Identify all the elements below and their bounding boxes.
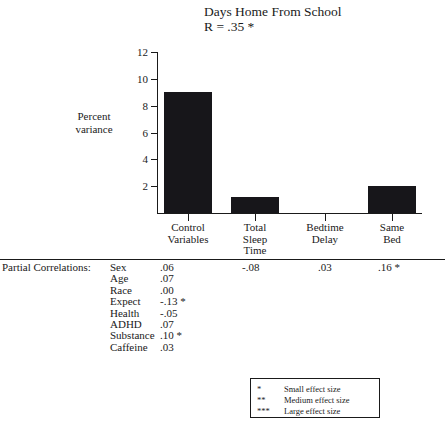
- x-axis-category-label-line: Same: [353, 222, 431, 234]
- partial-correlation-names-column: SexAgeRaceExpectHealthADHDSubstanceCaffe…: [110, 262, 155, 353]
- value-bedtime-delay: .03: [318, 262, 332, 273]
- partial-correlations-label: Partial Correlations:: [2, 262, 91, 273]
- y-axis-tick-label-text: 4: [124, 154, 148, 165]
- y-axis-tick: [151, 133, 158, 134]
- table-top-rule: [0, 259, 445, 260]
- x-axis-line: [157, 213, 422, 214]
- effect-size-legend: *Small effect size**Medium effect size**…: [250, 378, 380, 418]
- legend-marker: **: [257, 395, 283, 405]
- y-axis-tick-label-text: 12: [124, 47, 148, 58]
- bar: [368, 186, 416, 213]
- y-axis-title-line-1: Percent: [58, 110, 130, 123]
- legend-text: Large effect size: [284, 406, 340, 416]
- x-axis-category-label: SameBed: [353, 222, 431, 245]
- value-total-sleep-time: -.08: [242, 262, 259, 273]
- y-axis-tick-label-text: 2: [124, 181, 148, 192]
- legend-text: Small effect size: [284, 384, 341, 394]
- y-axis-title: Percent variance: [58, 110, 130, 135]
- legend-text: Medium effect size: [284, 395, 349, 405]
- y-axis-tick: [151, 159, 158, 160]
- y-axis-tick: [151, 186, 158, 187]
- legend-marker: ***: [257, 406, 283, 416]
- x-axis-tick: [188, 214, 189, 221]
- x-axis-category-label-line: Bed: [353, 234, 431, 246]
- x-axis-category-label: TotalSleepTime: [216, 222, 294, 257]
- bar: [164, 92, 212, 213]
- x-axis-tick: [325, 214, 326, 221]
- legend-marker: *: [257, 384, 283, 394]
- y-axis-tick: [151, 52, 158, 53]
- x-axis-tick: [255, 214, 256, 221]
- partial-correlation-values-column: .06.07.00-.13 *-.05.07.10 *.03: [160, 262, 186, 353]
- partial-correlation-value: .03: [160, 342, 186, 353]
- partial-correlation-name: Caffeine: [110, 342, 155, 353]
- partial-correlation-name: Expect: [110, 296, 155, 307]
- y-axis-tick-label-text: 10: [124, 74, 148, 85]
- x-axis-category-label-line: Total: [216, 222, 294, 234]
- value-same-bed: .16 *: [378, 262, 400, 273]
- bar: [231, 197, 279, 213]
- y-axis-title-line-2: variance: [58, 123, 130, 136]
- y-axis-tick: [151, 79, 158, 80]
- x-axis-tick: [392, 214, 393, 221]
- y-axis-tick: [151, 106, 158, 107]
- x-axis-category-label-line: Time: [216, 245, 294, 257]
- partial-correlation-value: -.13 *: [160, 296, 186, 307]
- bar-chart-plot-area: 12108642 Percent variance ControlVariabl…: [0, 0, 445, 258]
